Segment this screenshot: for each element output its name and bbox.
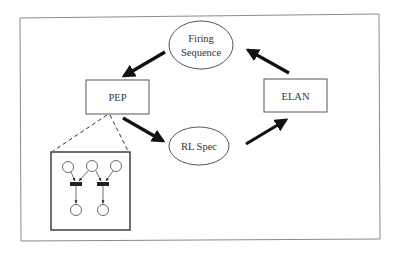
firing-sequence-label-2: Sequence (181, 47, 222, 58)
place-bottom-2 (98, 205, 109, 216)
rl-spec-label: RL Spec (181, 141, 217, 152)
elan-label: ELAN (282, 91, 310, 102)
node-rl-spec: RL Spec (169, 127, 229, 165)
diagram-canvas: Firing Sequence PEP ELAN RL Spec (0, 0, 399, 257)
transition-1 (70, 182, 82, 186)
place-bottom-1 (71, 205, 82, 216)
place-top-2 (87, 161, 98, 172)
zoom-line-left (53, 115, 107, 151)
arrow-pep-to-rlspec (123, 118, 163, 141)
place-top-1 (63, 162, 74, 173)
node-firing-sequence: Firing Sequence (169, 21, 233, 69)
arrow-elan-to-firing (248, 50, 289, 73)
place-top-3 (111, 161, 122, 172)
node-elan: ELAN (264, 79, 327, 112)
arrow-rlspec-to-elan (246, 120, 286, 144)
firing-sequence-label-1: Firing (188, 33, 214, 44)
node-pep: PEP (86, 80, 149, 114)
transition-2 (97, 182, 109, 186)
inset-petri-net (51, 152, 130, 230)
arrow-firing-to-pep (124, 52, 165, 76)
pep-label: PEP (108, 92, 126, 103)
